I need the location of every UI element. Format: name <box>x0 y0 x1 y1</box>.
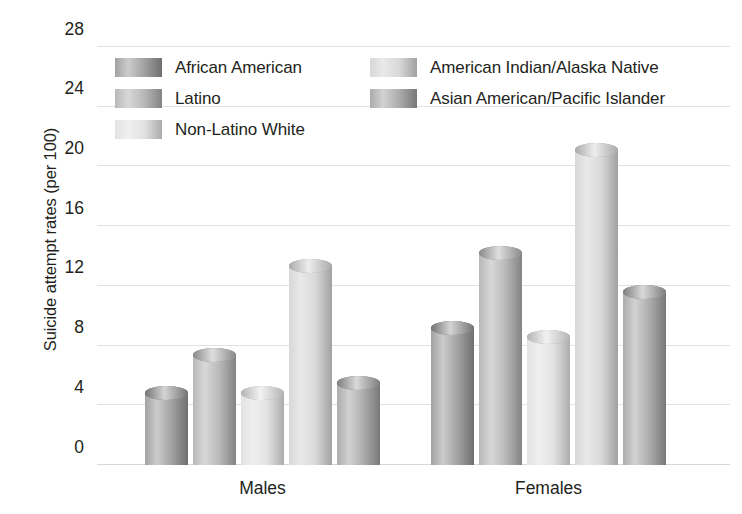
bar-females-american-indian-alaska-native <box>575 143 618 465</box>
legend-column-right: American Indian/Alaska NativeAsian Ameri… <box>370 56 665 141</box>
bar-body <box>241 393 284 465</box>
bar-males-asian-american-pacific-islander <box>337 376 380 465</box>
legend-item-african-american[interactable]: African American <box>115 56 370 79</box>
bar-males-american-indian-alaska-native <box>289 259 332 465</box>
x-axis-label-females: Females <box>449 478 649 499</box>
y-tick-label-4: 4 <box>24 379 84 397</box>
bar-cap <box>575 143 618 157</box>
bar-body <box>289 266 332 465</box>
bar-males-african-american <box>145 386 188 465</box>
bar-body <box>337 383 380 465</box>
legend-swatch-icon <box>115 120 162 139</box>
bar-cap <box>527 330 570 344</box>
bar-body <box>431 328 474 465</box>
bar-body <box>527 337 570 465</box>
bar-cap <box>623 285 666 299</box>
bar-body <box>479 253 522 465</box>
y-tick-label-0: 0 <box>24 439 84 457</box>
y-tick-label-24: 24 <box>24 80 84 98</box>
legend-label: Latino <box>175 89 221 109</box>
bar-body <box>193 355 236 465</box>
legend-label: African American <box>175 58 302 78</box>
bar-cap <box>193 348 236 362</box>
legend: African AmericanLatinoNon-Latino White A… <box>115 56 665 141</box>
legend-label: Asian American/Pacific Islander <box>430 89 665 109</box>
bar-cap <box>479 246 522 260</box>
chart-root: Suicide attempt rates (per 100) 04812162… <box>0 0 742 514</box>
bar-body <box>575 150 618 465</box>
legend-label: Non-Latino White <box>175 120 305 140</box>
legend-swatch-icon <box>115 58 162 77</box>
bar-females-asian-american-pacific-islander <box>623 285 666 465</box>
y-tick-label-8: 8 <box>24 319 84 337</box>
legend-column-left: African AmericanLatinoNon-Latino White <box>115 56 370 141</box>
legend-label: American Indian/Alaska Native <box>430 58 659 78</box>
bar-body <box>623 292 666 465</box>
y-tick-label-12: 12 <box>24 260 84 278</box>
legend-item-american-indian-alaska-native[interactable]: American Indian/Alaska Native <box>370 56 665 79</box>
legend-item-non-latino-white[interactable]: Non-Latino White <box>115 118 370 141</box>
bar-females-non-latino-white <box>527 330 570 465</box>
bar-cap <box>337 376 380 390</box>
bar-females-african-american <box>431 321 474 465</box>
bar-males-latino <box>193 348 236 465</box>
y-tick-label-28: 28 <box>24 21 84 39</box>
y-tick-label-20: 20 <box>24 140 84 158</box>
bar-females-latino <box>479 246 522 465</box>
bar-body <box>145 393 188 465</box>
legend-item-asian-american-pacific-islander[interactable]: Asian American/Pacific Islander <box>370 87 665 110</box>
legend-item-latino[interactable]: Latino <box>115 87 370 110</box>
x-axis-label-males: Males <box>163 478 363 499</box>
legend-swatch-icon <box>370 89 417 108</box>
legend-swatch-icon <box>115 89 162 108</box>
y-tick-label-16: 16 <box>24 200 84 218</box>
bar-males-non-latino-white <box>241 386 284 465</box>
legend-swatch-icon <box>370 58 417 77</box>
bar-cap <box>431 321 474 335</box>
